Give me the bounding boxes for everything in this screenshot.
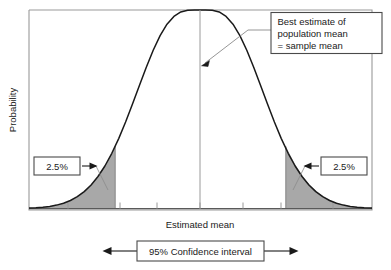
y-axis-label: Probability <box>7 88 18 133</box>
x-axis-label: Estimated mean <box>166 219 235 230</box>
lower-tail-label: 2.5% <box>46 161 68 172</box>
mean-callout-line-2: population mean <box>278 28 348 39</box>
mean-callout-line-1: Best estimate of <box>278 16 346 27</box>
ci-label: 95% Confidence interval <box>149 246 252 257</box>
upper-tail-label: 2.5% <box>333 161 355 172</box>
normal-distribution-chart: Best estimate of population mean = sampl… <box>0 0 391 270</box>
statistics-figure: Best estimate of population mean = sampl… <box>0 0 391 270</box>
mean-callout-line-3: = sample mean <box>278 40 343 51</box>
